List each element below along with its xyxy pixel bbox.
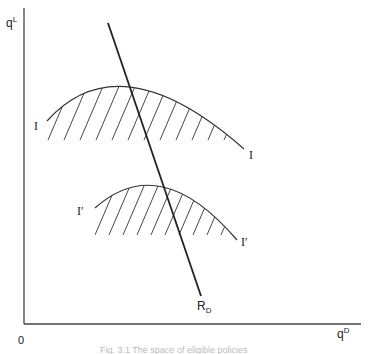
reaction-line: [108, 23, 201, 296]
upper-indifference-curve: [47, 86, 244, 149]
upper-curve-label-right: I: [249, 148, 253, 162]
figure-caption: Fig. 3.1 The space of eligible policies: [100, 345, 248, 354]
y-axis-label: qL: [6, 15, 18, 30]
diagram-canvas: qL qD 0 I I I′ I′ RD Fig. 3.1: [0, 0, 375, 354]
origin-label: 0: [18, 334, 24, 346]
lower-curve-label-left: I′: [77, 204, 84, 218]
axes: [24, 8, 361, 324]
upper-hatching: [48, 70, 254, 140]
reaction-line-label: RD: [197, 299, 212, 315]
lower-curve-label-right: I′: [241, 235, 248, 249]
upper-curve-label-left: I: [34, 119, 38, 133]
lower-hatching: [95, 165, 251, 235]
x-axis-label: qD: [337, 326, 350, 341]
